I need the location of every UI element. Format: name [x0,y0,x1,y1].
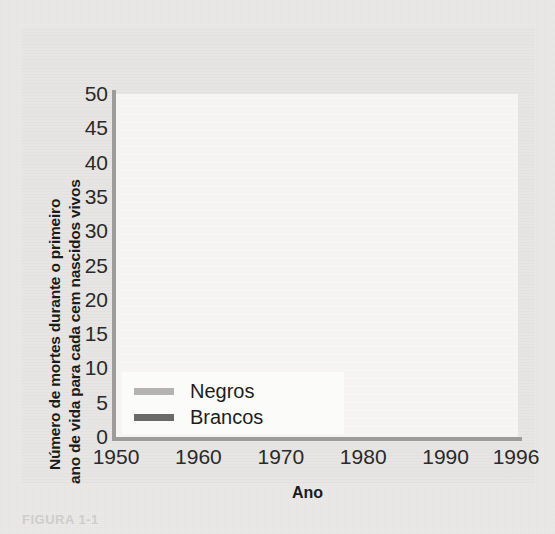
chart-legend: Negros Brancos [122,372,344,434]
y-tick-label: 5 [64,392,108,413]
legend-label-brancos: Brancos [190,407,263,427]
legend-swatch-negros [134,388,174,395]
y-tick-label: 45 [64,117,108,138]
x-axis-title: Ano [0,484,555,502]
x-tick-label: 1970 [257,446,304,467]
y-tick-label: 25 [64,255,108,276]
y-tick-label: 20 [64,289,108,310]
legend-label-negros: Negros [190,381,254,401]
legend-item-brancos: Brancos [134,404,334,430]
x-tick-label: 1980 [340,446,387,467]
y-tick-label: 0 [64,426,108,447]
y-tick-label: 40 [64,152,108,173]
y-axis-line [112,90,116,441]
x-tick-label: 1950 [93,446,140,467]
figure-caption: FIGURA 1-1 [22,512,99,527]
x-tick-label: 1960 [175,446,222,467]
legend-swatch-brancos [134,414,174,421]
y-tick-label: 50 [64,83,108,104]
x-axis-line [112,437,522,441]
y-tick-label: 10 [64,357,108,378]
x-tick-label: 1990 [422,446,469,467]
x-tick-label: 1996 [493,446,540,467]
y-tick-label: 35 [64,186,108,207]
legend-item-negros: Negros [134,378,334,404]
y-tick-label: 30 [64,220,108,241]
y-tick-label: 15 [64,323,108,344]
